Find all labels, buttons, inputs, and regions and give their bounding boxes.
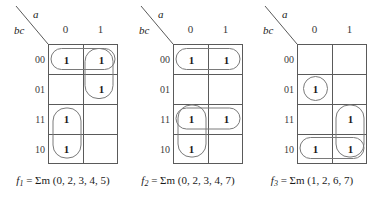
column-header-1: 1 xyxy=(208,23,243,35)
row-header-11: 11 xyxy=(273,114,294,125)
cell-11-1: 1 xyxy=(333,104,368,134)
variable-label-a: a xyxy=(33,8,39,20)
row-header-00: 00 xyxy=(24,54,45,65)
column-header-0: 0 xyxy=(173,23,208,35)
variable-label-a: a xyxy=(158,8,164,20)
cell-11-0: 1 xyxy=(174,104,209,134)
cell-10-1 xyxy=(209,134,244,164)
caption-f2: f2 = Σm (0, 2, 3, 4, 7) xyxy=(125,174,251,188)
cell-01-1: 1 xyxy=(84,74,119,104)
cell-11-1 xyxy=(84,104,119,134)
kmap-grid: 1 1 1 1 xyxy=(297,44,367,164)
caption-rest: = Σm (0, 2, 3, 4, 5) xyxy=(23,174,109,186)
column-header-1: 1 xyxy=(332,23,367,35)
cell-11-0 xyxy=(298,104,333,134)
cell-10-1: 1 xyxy=(333,134,368,164)
cell-00-1: 1 xyxy=(209,45,244,75)
kmap-2: a bc 0 1 00 01 11 10 1 1 1 1 1 xyxy=(125,0,251,197)
cell-10-0: 1 xyxy=(298,134,333,164)
row-header-01: 01 xyxy=(24,84,45,95)
column-header-0: 0 xyxy=(297,23,332,35)
caption-f1: f1 = Σm (0, 2, 3, 4, 5) xyxy=(0,174,126,188)
row-header-11: 11 xyxy=(149,114,170,125)
row-header-00: 00 xyxy=(149,54,170,65)
cell-00-1 xyxy=(333,45,368,75)
cell-10-1 xyxy=(84,134,119,164)
row-header-10: 10 xyxy=(149,144,170,155)
kmap-grid: 1 1 1 1 1 xyxy=(48,44,118,164)
kmap-figure: a bc 0 1 00 01 11 10 1 1 1 1 1 xyxy=(0,0,377,197)
column-header-0: 0 xyxy=(48,23,83,35)
cell-11-1: 1 xyxy=(209,104,244,134)
caption-rest: = Σm (1, 2, 6, 7) xyxy=(278,174,353,186)
row-header-10: 10 xyxy=(24,144,45,155)
variable-label-bc: bc xyxy=(139,24,149,36)
caption-rest: = Σm (0, 2, 3, 4, 7) xyxy=(148,174,234,186)
kmap-3: a bc 0 1 00 01 11 10 1 1 1 1 xyxy=(249,0,375,197)
cell-01-1 xyxy=(333,74,368,104)
cell-00-0 xyxy=(298,45,333,75)
caption-f3: f3 = Σm (1, 2, 6, 7) xyxy=(249,174,375,188)
cell-00-0: 1 xyxy=(49,45,84,75)
row-header-01: 01 xyxy=(149,84,170,95)
row-header-01: 01 xyxy=(273,84,294,95)
row-header-11: 11 xyxy=(24,114,45,125)
kmap-grid: 1 1 1 1 1 xyxy=(173,44,243,164)
cell-01-0 xyxy=(49,74,84,104)
cell-01-0 xyxy=(174,74,209,104)
cell-10-0: 1 xyxy=(174,134,209,164)
variable-label-a: a xyxy=(282,8,288,20)
cell-10-0: 1 xyxy=(49,134,84,164)
cell-01-1 xyxy=(209,74,244,104)
column-header-1: 1 xyxy=(83,23,118,35)
cell-00-1: 1 xyxy=(84,45,119,75)
cell-00-0: 1 xyxy=(174,45,209,75)
cell-01-0: 1 xyxy=(298,74,333,104)
kmap-1: a bc 0 1 00 01 11 10 1 1 1 1 1 xyxy=(0,0,126,197)
row-header-10: 10 xyxy=(273,144,294,155)
row-header-00: 00 xyxy=(273,54,294,65)
cell-11-0: 1 xyxy=(49,104,84,134)
variable-label-bc: bc xyxy=(263,24,273,36)
variable-label-bc: bc xyxy=(14,24,24,36)
